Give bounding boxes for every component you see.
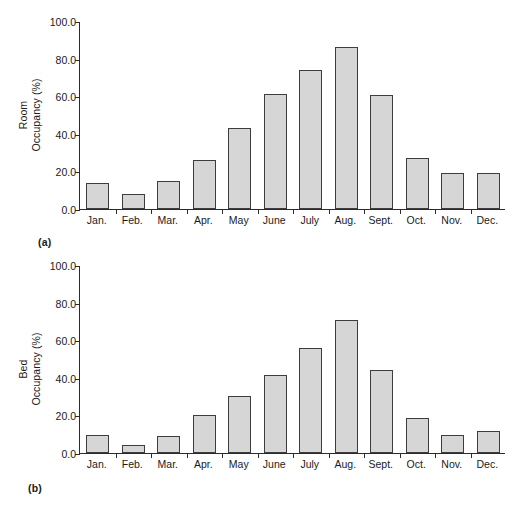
bar-mar: [157, 181, 180, 209]
plot-area-a: [79, 22, 505, 210]
y-axis-tick-labels-a: 0.020.040.060.080.0100.0: [36, 0, 76, 254]
x-axis-tick-label: Feb.: [122, 214, 143, 226]
y-axis-tick-label: 20.0: [36, 167, 76, 178]
x-axis-tick-label: Oct.: [407, 458, 426, 470]
x-axis-tick-label: Feb.: [122, 458, 143, 470]
bar-sept: [370, 95, 393, 209]
figure-room-and-bed-occupancy: Room Occupancy (%) 0.020.040.060.080.010…: [0, 0, 516, 508]
y-axis-tick-label: 100.0: [36, 261, 76, 272]
y-axis-title-b-line1: Bed: [17, 332, 30, 405]
bar-aug: [335, 47, 358, 209]
panel-a: Room Occupancy (%) 0.020.040.060.080.010…: [0, 0, 516, 254]
x-axis-tick-label: Mar.: [158, 458, 178, 470]
x-axis-tick-label: Sept.: [368, 214, 393, 226]
y-axis-tick: [75, 22, 80, 23]
bar-series-b: [80, 266, 505, 453]
y-axis-tick: [75, 60, 80, 61]
x-axis-tick-labels-a: Jan.Feb.Mar.Apr.MayJuneJulyAug.Sept.Oct.…: [79, 214, 505, 230]
x-axis-tick-label: Aug.: [334, 214, 356, 226]
x-axis-tick-label: July: [300, 458, 319, 470]
y-axis-tick: [75, 172, 80, 173]
panel-label-a: (a): [38, 236, 51, 248]
x-axis-tick-label: Oct.: [407, 214, 426, 226]
bar-feb: [122, 194, 145, 209]
bar-apr: [193, 160, 216, 209]
bar-dec: [477, 431, 500, 453]
bar-mar: [157, 436, 180, 453]
y-axis-tick-label: 60.0: [36, 92, 76, 103]
x-axis-tick-labels-b: Jan.Feb.Mar.Apr.MayJuneJulyAug.Sept.Oct.…: [79, 458, 505, 474]
y-axis-tick: [75, 454, 80, 455]
y-axis-tick: [75, 304, 80, 305]
bar-jan: [86, 183, 109, 209]
bar-nov: [441, 173, 464, 209]
bar-june: [264, 94, 287, 209]
x-axis-tick-label: June: [263, 458, 286, 470]
y-axis-title-a-line1: Room: [17, 78, 30, 151]
x-axis-tick-label: Jan.: [87, 214, 107, 226]
x-axis-tick-label: Dec.: [476, 458, 498, 470]
bar-nov: [441, 435, 464, 453]
x-axis-tick-label: July: [300, 214, 319, 226]
x-axis-tick-label: Aug.: [334, 458, 356, 470]
bar-dec: [477, 173, 500, 209]
y-axis-tick-label: 80.0: [36, 54, 76, 65]
x-axis-tick-label: May: [229, 458, 249, 470]
y-axis-tick: [75, 416, 80, 417]
x-axis-tick-label: Apr.: [194, 214, 213, 226]
y-axis-tick: [75, 97, 80, 98]
bar-july: [299, 70, 322, 209]
y-axis-tick-label: 0.0: [36, 205, 76, 216]
x-axis-tick-label: June: [263, 214, 286, 226]
y-axis-tick-label: 80.0: [36, 298, 76, 309]
bar-oct: [406, 158, 429, 209]
y-axis-tick: [75, 379, 80, 380]
y-axis-tick-labels-b: 0.020.040.060.080.0100.0: [36, 254, 76, 508]
bar-sept: [370, 370, 393, 453]
y-axis-tick-label: 60.0: [36, 336, 76, 347]
y-axis-tick: [75, 266, 80, 267]
bar-apr: [193, 415, 216, 453]
y-axis-tick-label: 40.0: [36, 130, 76, 141]
bar-may: [228, 396, 251, 453]
bar-aug: [335, 320, 358, 453]
y-axis-tick-label: 20.0: [36, 411, 76, 422]
bar-oct: [406, 418, 429, 453]
y-axis-tick-label: 100.0: [36, 17, 76, 28]
y-axis-tick: [75, 341, 80, 342]
x-axis-tick-label: Mar.: [158, 214, 178, 226]
bar-july: [299, 348, 322, 453]
bar-jan: [86, 435, 109, 453]
y-axis-tick-label: 40.0: [36, 374, 76, 385]
x-axis-tick-label: Apr.: [194, 458, 213, 470]
x-axis-tick-label: Nov.: [441, 458, 462, 470]
x-axis-tick-label: Sept.: [368, 458, 393, 470]
bar-june: [264, 375, 287, 453]
y-axis-tick-label: 0.0: [36, 449, 76, 460]
panel-label-b: (b): [28, 482, 42, 494]
x-axis-tick-label: May: [229, 214, 249, 226]
bar-may: [228, 128, 251, 209]
plot-area-b: [79, 266, 505, 454]
bar-feb: [122, 445, 145, 453]
x-axis-tick-label: Dec.: [476, 214, 498, 226]
y-axis-tick: [75, 210, 80, 211]
x-axis-tick-label: Nov.: [441, 214, 462, 226]
y-axis-tick: [75, 135, 80, 136]
bar-series-a: [80, 22, 505, 209]
x-axis-tick-label: Jan.: [87, 458, 107, 470]
